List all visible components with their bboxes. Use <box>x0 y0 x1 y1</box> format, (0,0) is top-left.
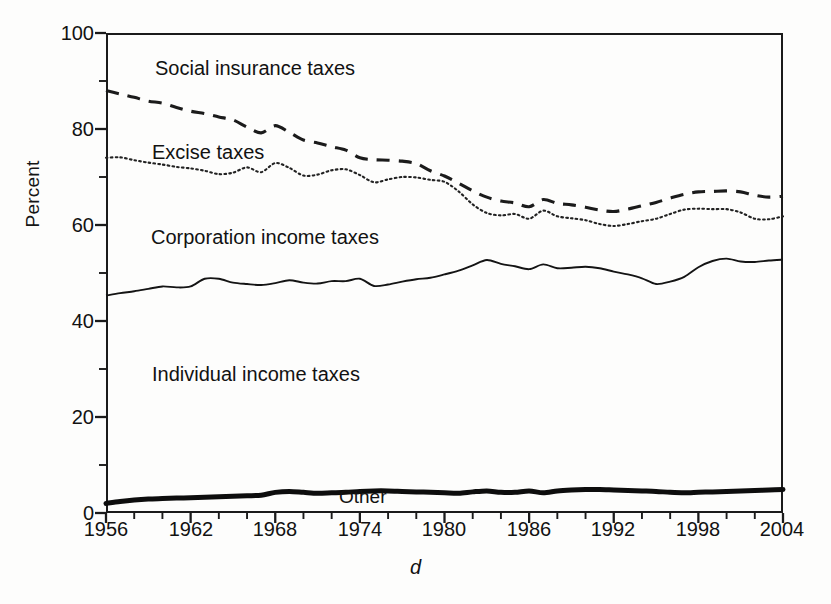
band-label-social-insurance: Social insurance taxes <box>155 58 355 78</box>
band-label-corporation: Corporation income taxes <box>151 227 379 247</box>
x-tick-label: 1980 <box>405 519 483 539</box>
band-label-individual: Individual income taxes <box>152 364 360 384</box>
series-line-corporation-boundary <box>106 259 783 296</box>
x-tick-label: 2004 <box>743 519 821 539</box>
y-tick-label: 20 <box>28 407 94 427</box>
x-tick-label: 1992 <box>574 519 652 539</box>
y-axis-ticks <box>95 33 106 513</box>
x-tick-label: 1956 <box>67 519 145 539</box>
y-tick-label: 100 <box>28 23 94 43</box>
x-tick-label: 1986 <box>490 519 568 539</box>
x-tick-label: 1962 <box>152 519 230 539</box>
figure-canvas: Percent 100 80 60 40 20 0 1956 1962 1968… <box>0 0 831 604</box>
series-line-excise-boundary <box>106 157 783 226</box>
band-label-excise: Excise taxes <box>152 142 264 162</box>
x-tick-label: 1968 <box>236 519 314 539</box>
x-axis-title: d <box>0 556 831 579</box>
series-line-other-boundary <box>106 489 783 503</box>
y-tick-label: 80 <box>28 119 94 139</box>
x-tick-label: 1974 <box>321 519 399 539</box>
band-label-other: Other <box>339 487 387 506</box>
x-tick-label: 1998 <box>659 519 737 539</box>
y-tick-label: 60 <box>28 215 94 235</box>
chart-svg-layer <box>0 0 831 604</box>
y-tick-label: 40 <box>28 311 94 331</box>
